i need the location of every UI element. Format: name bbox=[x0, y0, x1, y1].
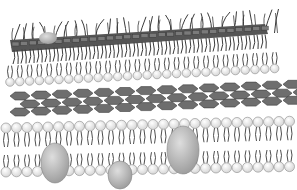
membrane-illustration bbox=[0, 0, 297, 190]
integral-protein-left bbox=[41, 143, 69, 183]
outer-protein bbox=[39, 32, 57, 44]
membrane-diagram bbox=[0, 0, 297, 190]
hexagonal-sheet bbox=[10, 80, 297, 116]
integral-protein-right bbox=[167, 126, 199, 174]
integral-protein-center bbox=[108, 161, 132, 189]
